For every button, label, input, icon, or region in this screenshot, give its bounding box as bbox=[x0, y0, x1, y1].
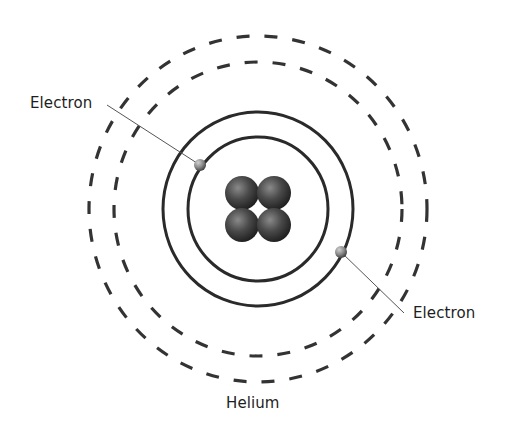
electron-lower-right-leader-line bbox=[341, 252, 404, 313]
diagram-caption-helium: Helium bbox=[226, 394, 280, 412]
helium-atom-diagram: Electron Electron Helium bbox=[0, 0, 514, 440]
orbits bbox=[89, 36, 427, 382]
outer-dashed-shell bbox=[89, 36, 427, 382]
electron-lower-right bbox=[335, 246, 347, 258]
nucleon-1 bbox=[225, 176, 259, 210]
nucleon-2 bbox=[257, 176, 291, 210]
atom-illustration bbox=[0, 0, 514, 440]
electron-label-left: Electron bbox=[30, 94, 92, 112]
nucleon-3 bbox=[225, 208, 259, 242]
inner-dashed-shell bbox=[114, 62, 402, 356]
nucleus bbox=[225, 176, 291, 242]
outer-solid-orbit bbox=[163, 112, 353, 306]
nucleon-4 bbox=[257, 208, 291, 242]
electron-label-right: Electron bbox=[413, 304, 475, 322]
electron-upper-left-leader-line bbox=[107, 105, 200, 165]
electron-upper-left bbox=[194, 159, 206, 171]
inner-solid-orbit bbox=[188, 137, 328, 281]
